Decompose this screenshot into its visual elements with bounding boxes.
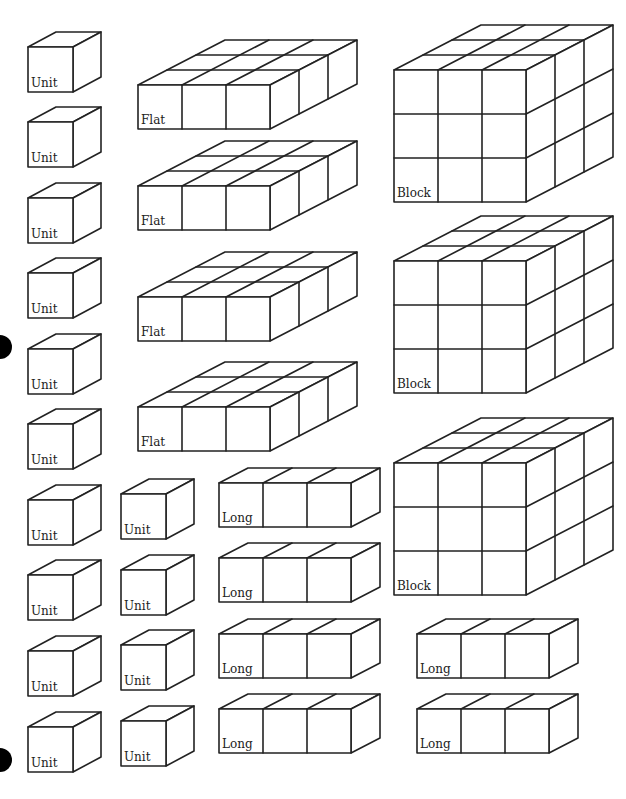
unit-12-label: Unit xyxy=(124,600,151,612)
flat-3-label: Flat xyxy=(141,326,165,338)
flat-4 xyxy=(138,362,357,451)
flat-2-label: Flat xyxy=(141,215,165,227)
flat-3 xyxy=(138,252,357,341)
unit-13-label: Unit xyxy=(124,675,151,687)
unit-11-label: Unit xyxy=(124,524,151,536)
unit-14-label: Unit xyxy=(124,751,151,763)
unit-10-label: Unit xyxy=(31,757,58,769)
unit-3-label: Unit xyxy=(31,228,58,240)
unit-2-label: Unit xyxy=(31,152,58,164)
long-2-label: Long xyxy=(222,587,253,599)
unit-9-label: Unit xyxy=(31,681,58,693)
long-3-label: Long xyxy=(222,663,253,675)
flat-2 xyxy=(138,141,357,230)
unit-1-label: Unit xyxy=(31,77,58,89)
block-1 xyxy=(394,25,613,202)
unit-5-label: Unit xyxy=(31,379,58,391)
unit-4-label: Unit xyxy=(31,303,58,315)
block-2 xyxy=(394,216,613,393)
block-1-label: Block xyxy=(397,187,431,199)
long-4-label: Long xyxy=(222,738,253,750)
flat-1 xyxy=(138,40,357,129)
unit-6-label: Unit xyxy=(31,454,58,466)
unit-7-label: Unit xyxy=(31,530,58,542)
block-3-label: Block xyxy=(397,580,431,592)
flat-4-label: Flat xyxy=(141,436,165,448)
long-1-label: Long xyxy=(222,512,253,524)
flat-1-label: Flat xyxy=(141,114,165,126)
block-3 xyxy=(394,418,613,595)
base-ten-blocks-diagram xyxy=(0,0,626,799)
unit-8-label: Unit xyxy=(31,605,58,617)
block-2-label: Block xyxy=(397,378,431,390)
long-5-label: Long xyxy=(420,663,451,675)
long-6-label: Long xyxy=(420,738,451,750)
